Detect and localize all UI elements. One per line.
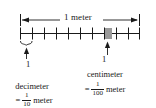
decimeter-fraction-unit: meter xyxy=(33,96,52,105)
centimeter-fraction: 1 100 xyxy=(91,81,104,97)
decimeter-unit-label: decimeter xyxy=(0,82,68,91)
centimeter-fraction-numerator: 1 xyxy=(95,81,101,88)
decimeter-fraction-denominator: 10 xyxy=(22,101,31,108)
decimeter-equation: = 1 10 meter xyxy=(0,92,70,108)
centimeter-equation-row: = 1 100 meter xyxy=(85,81,126,97)
meter-span-label: 1 meter xyxy=(0,13,156,22)
centimeter-pointer-arrow xyxy=(105,42,110,56)
centimeter-highlight-block xyxy=(104,28,112,39)
decimeter-pointer-head-icon xyxy=(24,48,29,55)
centimeter-equals-sign: = xyxy=(85,85,90,94)
ruler-scale xyxy=(20,28,140,40)
decimeter-equation-row: = 1 10 meter xyxy=(15,92,52,108)
centimeter-fraction-denominator: 100 xyxy=(91,90,104,97)
centimeter-equation: = 1 100 meter xyxy=(72,81,138,97)
decimeter-pointer-arrow xyxy=(24,48,29,60)
brace-curve xyxy=(21,41,33,45)
decimeter-value-label: 1 xyxy=(0,60,56,69)
meter-ruler-figure: 1 meter 1 decimeter = 1 10 meter 1 centi… xyxy=(0,0,156,108)
decimeter-equals-sign: = xyxy=(15,96,20,105)
decimeter-fraction: 1 10 xyxy=(22,92,31,108)
centimeter-unit-label: centimeter xyxy=(74,70,136,79)
centimeter-value-label: 1 xyxy=(78,55,130,64)
centimeter-pointer-head-icon xyxy=(105,42,110,49)
decimeter-brace xyxy=(21,41,33,45)
centimeter-fraction-unit: meter xyxy=(106,85,125,94)
decimeter-fraction-numerator: 1 xyxy=(24,92,30,99)
